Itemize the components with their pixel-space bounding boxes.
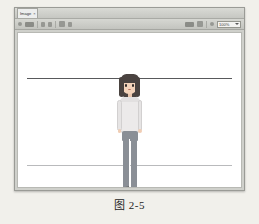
menu-icon[interactable] — [18, 22, 22, 26]
toolbar-divider — [55, 21, 56, 28]
right-leg — [131, 138, 138, 188]
book-page: Image × 100% — [0, 0, 259, 224]
leg-gap — [129, 139, 131, 188]
hair-left-strand — [119, 77, 124, 97]
right-arm — [138, 100, 143, 131]
right-eye — [132, 84, 134, 87]
left-eye — [125, 84, 127, 87]
left-shoe — [121, 186, 131, 188]
right-hand — [138, 129, 142, 133]
image-viewer-window: Image × 100% — [14, 7, 245, 191]
hair-right-strand — [135, 77, 140, 97]
zoom-level-value: 100% — [219, 22, 229, 27]
save-icon[interactable] — [41, 22, 45, 27]
print-icon[interactable] — [185, 22, 194, 27]
window-title-bar: Image × — [15, 8, 244, 19]
zoom-level-select[interactable]: 100% — [217, 21, 241, 28]
torso-sweater — [120, 97, 140, 133]
settings-icon[interactable] — [197, 21, 203, 27]
search-icon[interactable] — [210, 22, 214, 26]
character-illustration — [113, 73, 147, 188]
image-canvas[interactable] — [17, 32, 242, 188]
toolbar-divider — [206, 21, 207, 28]
left-arm — [117, 100, 122, 131]
figure-caption: 图 2-5 — [0, 196, 259, 212]
close-icon[interactable]: × — [33, 12, 35, 16]
window-tab-label: Image — [20, 12, 31, 16]
rotate-icon[interactable] — [68, 22, 72, 27]
window-tab[interactable]: Image × — [17, 8, 38, 18]
toolbar-divider — [37, 21, 38, 28]
undo-icon[interactable] — [48, 22, 52, 27]
crop-icon[interactable] — [59, 21, 65, 27]
open-file-icon[interactable] — [25, 22, 34, 27]
toolbar: 100% — [15, 19, 244, 30]
chevron-down-icon — [235, 23, 239, 25]
shoulder-shading — [120, 97, 140, 102]
left-hand — [118, 129, 122, 133]
